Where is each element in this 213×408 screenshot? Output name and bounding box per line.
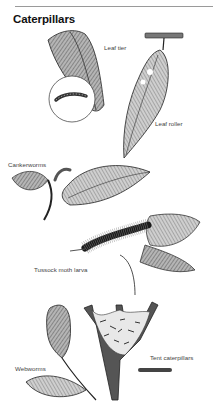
leaf-roller-illustration [124, 33, 183, 158]
label-cankerworms: Cankerworms [8, 161, 46, 168]
cankerworms-illustration [12, 166, 150, 220]
label-tent-caterpillars: Tent caterpillars [150, 354, 193, 361]
caterpillar-illustrations [0, 0, 213, 408]
tussock-moth-larva-illustration [70, 214, 200, 295]
leaf-tier-illustration [48, 31, 104, 122]
label-tussock-moth-larva: Tussock moth larva [34, 266, 87, 273]
tent-caterpillars-illustration [84, 302, 170, 400]
webworms-illustration [26, 305, 96, 400]
label-webworms: Webworms [15, 365, 46, 372]
label-leaf-roller: Leaf roller [155, 120, 183, 127]
label-leaf-tier: Leaf tier [104, 44, 126, 51]
